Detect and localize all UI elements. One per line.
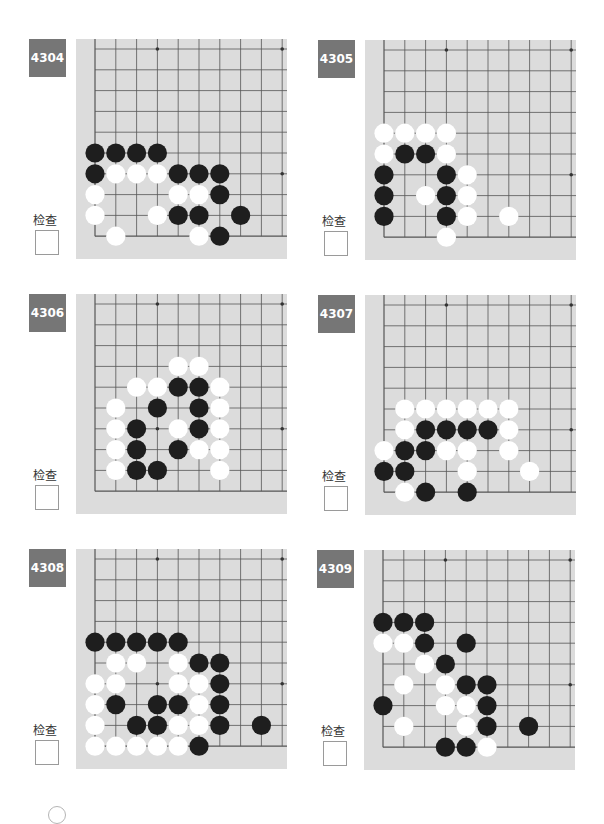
black-stone xyxy=(458,420,477,439)
go-board xyxy=(76,39,287,259)
white-stone xyxy=(210,398,229,417)
white-stone xyxy=(85,185,104,204)
check-box[interactable] xyxy=(324,486,348,511)
black-stone xyxy=(457,634,476,653)
black-stone xyxy=(148,398,167,417)
check-box[interactable] xyxy=(324,231,348,256)
black-stone xyxy=(148,143,167,162)
white-stone xyxy=(106,461,125,480)
black-stone xyxy=(148,695,167,714)
black-stone xyxy=(416,483,435,502)
problem-number-badge: 4308 xyxy=(29,549,66,587)
white-stone xyxy=(148,164,167,183)
white-stone xyxy=(127,737,146,756)
white-stone xyxy=(437,144,456,163)
star-point xyxy=(156,302,160,306)
white-stone xyxy=(106,398,125,417)
black-stone xyxy=(395,441,414,460)
black-stone xyxy=(189,206,208,225)
black-stone xyxy=(477,717,496,736)
star-point xyxy=(280,427,284,431)
black-stone xyxy=(210,695,229,714)
black-stone xyxy=(416,144,435,163)
black-stone xyxy=(169,206,188,225)
black-stone xyxy=(189,737,208,756)
black-stone xyxy=(189,164,208,183)
black-stone xyxy=(189,378,208,397)
white-stone xyxy=(373,634,392,653)
black-stone xyxy=(457,675,476,694)
problem-number-badge: 4304 xyxy=(29,39,66,77)
black-stone xyxy=(252,716,271,735)
black-stone xyxy=(85,633,104,652)
go-board xyxy=(76,549,287,769)
black-stone xyxy=(169,164,188,183)
white-stone xyxy=(477,738,496,757)
white-stone xyxy=(106,653,125,672)
black-stone xyxy=(415,634,434,653)
black-stone xyxy=(477,696,496,715)
black-stone xyxy=(189,653,208,672)
black-stone xyxy=(458,483,477,502)
white-stone xyxy=(458,441,477,460)
problem-4309: 4309检查 xyxy=(317,550,604,782)
white-stone xyxy=(458,462,477,481)
problem-number-badge: 4307 xyxy=(318,295,355,333)
black-stone xyxy=(169,378,188,397)
white-stone xyxy=(189,357,208,376)
white-stone xyxy=(85,737,104,756)
white-stone xyxy=(127,164,146,183)
check-box[interactable] xyxy=(35,230,59,255)
white-stone xyxy=(374,441,393,460)
white-stone xyxy=(394,717,413,736)
star-point xyxy=(569,48,573,52)
white-stone xyxy=(458,165,477,184)
black-stone xyxy=(106,143,125,162)
star-point xyxy=(156,47,160,51)
star-point xyxy=(569,428,573,432)
go-board xyxy=(365,40,576,260)
white-stone xyxy=(127,378,146,397)
white-stone xyxy=(106,737,125,756)
white-stone xyxy=(478,399,497,418)
star-point xyxy=(445,48,449,52)
black-stone xyxy=(374,186,393,205)
check-label: 检查 xyxy=(322,212,346,229)
white-stone xyxy=(189,227,208,246)
problem-number-badge: 4305 xyxy=(318,40,355,78)
white-stone xyxy=(148,378,167,397)
white-stone xyxy=(436,675,455,694)
problem-4304: 4304检查 xyxy=(29,39,319,271)
check-label: 检查 xyxy=(33,721,57,738)
star-point xyxy=(280,302,284,306)
white-stone xyxy=(210,419,229,438)
black-stone xyxy=(210,185,229,204)
white-stone xyxy=(416,399,435,418)
white-stone xyxy=(458,399,477,418)
star-point xyxy=(569,173,573,177)
black-stone xyxy=(169,633,188,652)
check-box[interactable] xyxy=(35,485,59,510)
star-point xyxy=(280,47,284,51)
black-stone xyxy=(374,207,393,226)
black-stone xyxy=(519,717,538,736)
white-stone xyxy=(415,654,434,673)
white-stone xyxy=(210,461,229,480)
white-stone xyxy=(458,207,477,226)
white-stone xyxy=(85,695,104,714)
problem-number-badge: 4306 xyxy=(29,294,66,332)
black-stone xyxy=(394,613,413,632)
white-stone xyxy=(437,399,456,418)
star-point xyxy=(444,558,448,562)
white-stone xyxy=(106,674,125,693)
black-stone xyxy=(478,420,497,439)
black-stone xyxy=(127,419,146,438)
black-stone xyxy=(373,613,392,632)
star-point xyxy=(568,683,572,687)
check-box[interactable] xyxy=(35,740,59,765)
problem-4308: 4308检查 xyxy=(29,549,319,781)
go-board xyxy=(364,550,575,770)
black-stone xyxy=(437,207,456,226)
white-stone xyxy=(169,737,188,756)
check-box[interactable] xyxy=(323,741,347,766)
